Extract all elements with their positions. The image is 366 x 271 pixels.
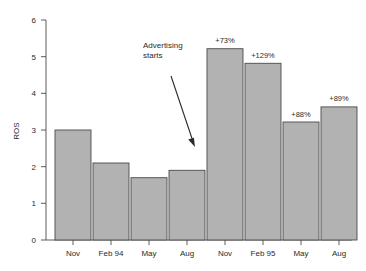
x-category-label-7: Aug xyxy=(332,249,346,258)
y-tick-label-3: 3 xyxy=(32,126,37,135)
bar-0 xyxy=(55,130,91,240)
x-category-label-1: Feb 94 xyxy=(99,249,124,258)
y-tick-label-0: 0 xyxy=(32,236,37,245)
advertising-note-line2: starts xyxy=(143,51,163,60)
x-category-label-2: May xyxy=(141,249,156,258)
bar-7 xyxy=(321,107,357,240)
y-axis-title: ROS xyxy=(12,122,21,139)
y-tick-label-5: 5 xyxy=(32,53,37,62)
advertising-arrow-head xyxy=(188,138,195,147)
x-category-label-6: May xyxy=(293,249,308,258)
y-tick-label-1: 1 xyxy=(32,199,37,208)
chart-canvas: 0 1 2 3 4 5 6 ROS Nov Feb 94 May Aug Nov… xyxy=(0,0,366,271)
x-category-label-5: Feb 95 xyxy=(251,249,276,258)
bar-1 xyxy=(93,163,129,240)
bar-2 xyxy=(131,178,167,240)
x-category-label-3: Aug xyxy=(180,249,194,258)
bar-5 xyxy=(245,63,281,240)
x-category-label-4: Nov xyxy=(218,249,232,258)
bar-annotation-7: +89% xyxy=(329,94,349,103)
y-tick-label-2: 2 xyxy=(32,163,37,172)
bar-annotation-6: +88% xyxy=(291,110,311,119)
bar-annotation-4: +73% xyxy=(215,36,235,45)
x-category-label-0: Nov xyxy=(66,249,80,258)
bar-4 xyxy=(207,49,243,240)
advertising-arrow-line xyxy=(171,76,193,140)
bar-annotation-5: +129% xyxy=(251,51,275,60)
y-tick-label-6: 6 xyxy=(32,16,37,25)
y-tick-label-4: 4 xyxy=(32,89,37,98)
bar-6 xyxy=(283,122,319,240)
bar-chart: 0 1 2 3 4 5 6 ROS Nov Feb 94 May Aug Nov… xyxy=(0,0,366,271)
bar-3 xyxy=(169,170,205,240)
advertising-note-line1: Advertising xyxy=(143,41,183,50)
